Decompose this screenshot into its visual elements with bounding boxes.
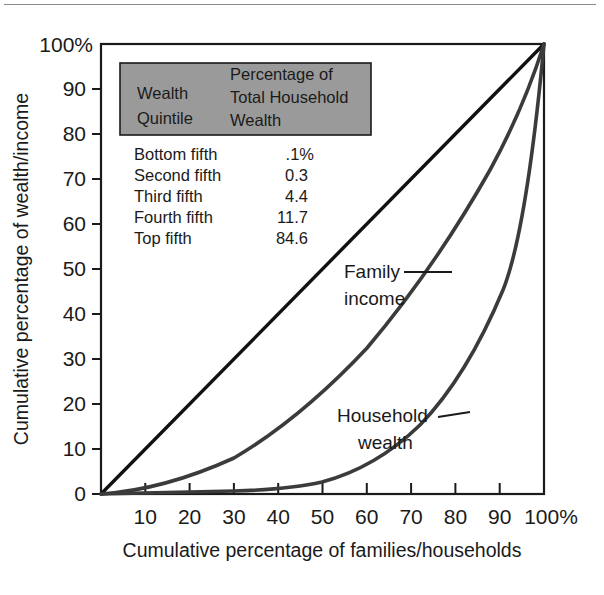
annotation-household-wealth-leader bbox=[438, 412, 470, 417]
row-value: 4.4 bbox=[285, 187, 308, 205]
row-label: Third fifth bbox=[134, 187, 203, 205]
row-label: Top fifth bbox=[134, 229, 192, 247]
row-label: Bottom fifth bbox=[134, 145, 217, 163]
legend-col1-line1: Wealth bbox=[137, 84, 188, 102]
y-tick-80: 80 bbox=[63, 122, 86, 145]
row-label: Fourth fifth bbox=[134, 208, 213, 226]
lorenz-curve-chart: 0 10 20 30 40 50 60 70 80 90 100% 10 bbox=[0, 0, 604, 595]
legend-col2-line3: Wealth bbox=[230, 111, 281, 129]
x-tick-10: 10 bbox=[134, 505, 157, 528]
y-axis-tick-labels: 0 10 20 30 40 50 60 70 80 90 100% bbox=[39, 33, 93, 505]
x-tick-100: 100% bbox=[524, 505, 578, 528]
y-axis-title: Cumulative percentage of wealth/income bbox=[10, 93, 32, 445]
legend-data-rows: Bottom fifth .1% Second fifth 0.3 Third … bbox=[134, 145, 314, 247]
y-tick-70: 70 bbox=[63, 167, 86, 190]
y-tick-90: 90 bbox=[63, 77, 86, 100]
x-tick-40: 40 bbox=[267, 505, 290, 528]
y-tick-100: 100% bbox=[39, 33, 93, 56]
annotation-household-wealth-line1: Household bbox=[337, 405, 428, 426]
y-tick-30: 30 bbox=[63, 347, 86, 370]
legend-col1-line2: Quintile bbox=[137, 109, 193, 127]
legend-col2-line2: Total Household bbox=[230, 88, 348, 106]
x-axis-title: Cumulative percentage of families/househ… bbox=[123, 539, 522, 561]
x-tick-30: 30 bbox=[222, 505, 245, 528]
y-tick-10: 10 bbox=[63, 437, 86, 460]
x-tick-50: 50 bbox=[311, 505, 334, 528]
annotation-family-income: Family income bbox=[344, 261, 452, 309]
row-value: 11.7 bbox=[277, 208, 308, 226]
x-tick-20: 20 bbox=[178, 505, 201, 528]
annotation-family-income-line1: Family bbox=[344, 261, 400, 282]
annotation-household-wealth: Household wealth bbox=[337, 405, 470, 453]
y-axis-ticks bbox=[92, 89, 101, 494]
row-label: Second fifth bbox=[134, 166, 221, 184]
y-tick-40: 40 bbox=[63, 302, 86, 325]
row-value: 84.6 bbox=[276, 229, 308, 247]
y-tick-0: 0 bbox=[74, 482, 86, 505]
figure-page: 0 10 20 30 40 50 60 70 80 90 100% 10 bbox=[0, 0, 604, 595]
y-tick-20: 20 bbox=[63, 392, 86, 415]
y-tick-50: 50 bbox=[63, 257, 86, 280]
table-row: Bottom fifth .1% bbox=[134, 145, 314, 163]
x-axis-tick-labels: 10 20 30 40 50 60 70 80 90 100% bbox=[134, 505, 578, 528]
row-value: 0.3 bbox=[285, 166, 308, 184]
annotation-family-income-line2: income bbox=[344, 288, 405, 309]
table-row: Fourth fifth 11.7 bbox=[134, 208, 308, 226]
legend-col2-line1: Percentage of bbox=[230, 65, 333, 83]
row-value: .1% bbox=[286, 145, 315, 163]
y-tick-60: 60 bbox=[63, 212, 86, 235]
table-row: Third fifth 4.4 bbox=[134, 187, 308, 205]
x-tick-70: 70 bbox=[399, 505, 422, 528]
x-tick-60: 60 bbox=[355, 505, 378, 528]
annotation-household-wealth-line2: wealth bbox=[357, 432, 413, 453]
table-row: Second fifth 0.3 bbox=[134, 166, 308, 184]
table-row: Top fifth 84.6 bbox=[134, 229, 308, 247]
x-tick-80: 80 bbox=[444, 505, 467, 528]
x-tick-90: 90 bbox=[488, 505, 511, 528]
